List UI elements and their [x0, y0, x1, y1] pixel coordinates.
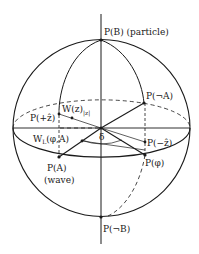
line-to-minus-z	[101, 128, 145, 142]
label-wz: W(z)|z|	[62, 104, 90, 117]
label-wz-main: W(z)	[62, 104, 83, 114]
point-a	[57, 155, 60, 158]
point-south-pole	[99, 215, 102, 218]
line-wz	[59, 114, 101, 128]
label-wz-sub: |z|	[83, 109, 90, 117]
point-wl	[81, 140, 84, 143]
label-plus-z: P(+ẑ)	[30, 113, 55, 123]
dashed-arc-phi-to-south	[108, 155, 145, 216]
point-plus-z	[58, 113, 61, 116]
radius-to-not-a	[101, 103, 144, 128]
label-phi: P(φ)	[145, 158, 164, 168]
bloch-sphere-diagram: P(B) (particle) P(¬B) P(¬A) P(+ẑ) P(−ẑ) …	[0, 0, 199, 254]
meridian-left	[59, 40, 101, 110]
point-wz	[71, 117, 74, 120]
label-a: P(A)	[47, 163, 67, 173]
point-phi	[143, 153, 146, 156]
meridian-right	[101, 40, 144, 103]
point-not-a	[142, 101, 145, 104]
label-delta: δ	[99, 132, 104, 142]
label-wl: WL(φ,A)	[33, 134, 69, 145]
label-north-pole: P(B) (particle)	[104, 27, 169, 37]
point-north-pole	[99, 38, 102, 41]
point-center	[99, 126, 102, 129]
radius-to-phi	[101, 128, 145, 155]
label-wave: (wave)	[44, 175, 75, 185]
point-minus-z	[144, 141, 147, 144]
label-not-a: P(¬A)	[146, 91, 173, 101]
label-minus-z: P(−ẑ)	[147, 138, 172, 148]
label-south-pole: P(¬B)	[103, 224, 130, 234]
label-wl-args: (φ,A)	[46, 134, 69, 144]
